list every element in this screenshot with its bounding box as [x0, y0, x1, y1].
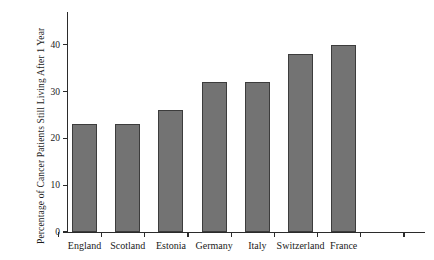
- bar: [288, 54, 313, 232]
- y-tick-mark: [63, 231, 68, 232]
- x-tick-mark: [360, 232, 361, 237]
- x-tick-mark: [187, 232, 188, 237]
- bar: [158, 110, 183, 232]
- x-tick-mark: [58, 232, 59, 237]
- y-tick-mark: [63, 185, 68, 186]
- y-tick-mark: [63, 44, 68, 45]
- x-tick-mark: [317, 232, 318, 237]
- bar: [245, 82, 270, 232]
- x-tick-label: Italy: [248, 240, 266, 252]
- x-tick-mark: [274, 232, 275, 237]
- y-tick-label: 30: [20, 87, 60, 97]
- x-tick-label: England: [68, 240, 101, 252]
- bar: [72, 124, 97, 232]
- bar: [202, 82, 227, 232]
- x-tick-label: Switzerland: [277, 240, 325, 252]
- bar: [331, 45, 356, 232]
- x-tick-mark: [403, 232, 404, 237]
- x-tick-mark: [231, 232, 232, 237]
- y-tick-label: 0: [20, 227, 60, 237]
- x-tick-mark: [144, 232, 145, 237]
- x-tick-label: France: [330, 240, 357, 252]
- x-tick-label: Estonia: [156, 240, 186, 252]
- y-tick-mark: [63, 91, 68, 92]
- x-tick-label: Scotland: [110, 240, 145, 252]
- bar: [115, 124, 140, 232]
- y-tick-label: 20: [20, 133, 60, 143]
- y-tick-label: 40: [20, 40, 60, 50]
- bar-chart: Percentage of Cancer Patients Still Livi…: [0, 0, 434, 260]
- y-tick-mark: [63, 138, 68, 139]
- y-tick-label: 10: [20, 180, 60, 190]
- x-tick-mark: [101, 232, 102, 237]
- plot-area: 010203040 EnglandScotlandEstoniaGermanyI…: [0, 0, 434, 260]
- x-tick-label: Germany: [195, 240, 232, 252]
